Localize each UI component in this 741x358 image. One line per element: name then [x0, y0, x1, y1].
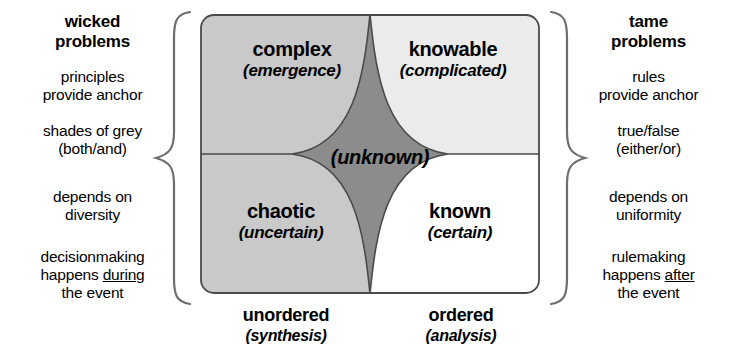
axis-label-ordered: ordered (analysis)	[376, 305, 546, 345]
after-emphasis: after	[665, 266, 695, 283]
happens-prefix: happens	[602, 266, 664, 283]
right-curly-brace-icon	[545, 8, 591, 308]
label-unknown: (unknown)	[295, 146, 465, 169]
left-curly-brace-icon	[150, 8, 196, 308]
axis-label-unordered: unordered (synthesis)	[196, 305, 376, 345]
cynefin-matrix: complex (emergence) knowable (complicate…	[200, 14, 540, 294]
happens-prefix: happens	[40, 266, 102, 283]
during-emphasis: during	[103, 266, 145, 283]
